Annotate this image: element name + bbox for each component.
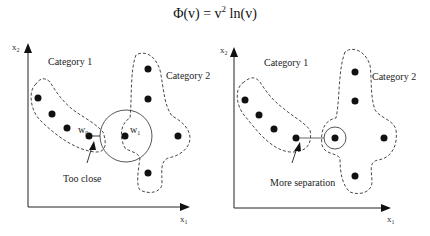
category2-point: [145, 96, 152, 103]
right-diagram: x2 x1 Category 1 Category 2 More separat…: [220, 45, 416, 225]
category2-point: [145, 170, 152, 177]
y-axis-label: x2: [220, 45, 228, 56]
category2-label: Category 2: [372, 71, 416, 82]
category2-point: [352, 98, 359, 105]
y-axis-arrow-icon: [230, 47, 238, 57]
category2-label: Category 2: [166, 70, 210, 81]
category1-point: [242, 97, 249, 104]
category2-point: [352, 69, 359, 76]
category1-point: [64, 125, 71, 132]
w0-label: w0: [78, 124, 88, 136]
category2-point: [332, 135, 339, 142]
x-axis-arrow-icon: [180, 203, 190, 211]
category1-label: Category 1: [48, 56, 92, 67]
x-axis-label: x1: [180, 214, 188, 225]
category1-point: [256, 112, 263, 119]
annotation-arrowhead-icon: [89, 141, 96, 150]
category1-label: Category 1: [264, 57, 308, 68]
diagrams: x2 x1 Category 1 Category 2 w0 w1 Too cl…: [0, 0, 430, 236]
category2-point: [381, 135, 388, 142]
category2-point: [352, 173, 359, 180]
category2-point: [145, 66, 152, 73]
left-diagram: x2 x1 Category 1 Category 2 w0 w1 Too cl…: [12, 42, 210, 225]
category2-point: [175, 133, 182, 140]
category1-region: [31, 79, 105, 152]
annotation-more-separation: More separation: [270, 177, 335, 188]
w1-point: [122, 133, 129, 140]
category1-point: [35, 95, 42, 102]
x-axis-label: x1: [387, 214, 395, 225]
x-axis-arrow-icon: [381, 204, 391, 212]
annotation-too-close: Too close: [63, 173, 102, 184]
category1-region: [237, 78, 310, 152]
category1-point: [49, 111, 56, 118]
category1-point: [271, 126, 278, 133]
w1-label: w1: [130, 124, 140, 136]
annotation-arrowhead-icon: [294, 142, 301, 151]
y-axis-arrow-icon: [24, 43, 32, 53]
category1-point: [293, 135, 300, 142]
y-axis-label: x2: [12, 42, 20, 53]
